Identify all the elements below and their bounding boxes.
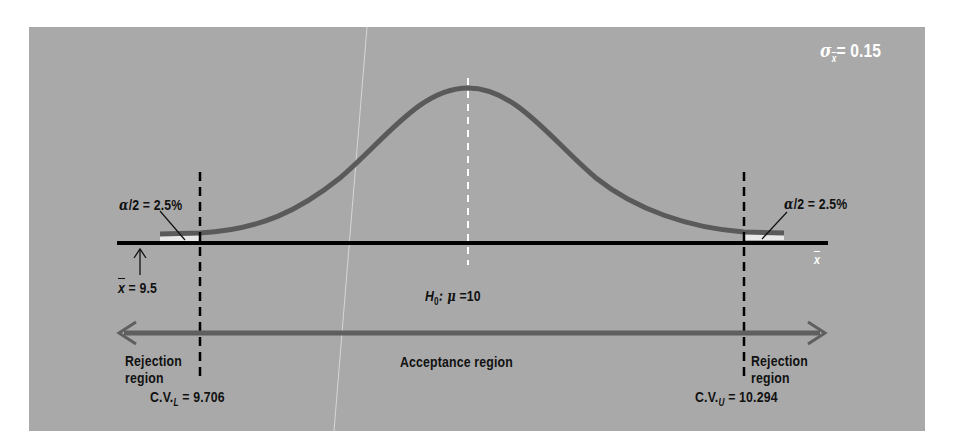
mu-symbol: : μ — [439, 288, 456, 304]
right-region-line2: region — [751, 369, 808, 386]
sigma-symbol: σ — [820, 39, 832, 61]
sigma-value: = 0.15 — [836, 40, 881, 61]
right-alpha-value: /2 = 2.5% — [794, 195, 848, 212]
left-rejection-region-label: Rejection region — [125, 352, 182, 386]
cv-upper-subscript: U — [718, 397, 724, 408]
cv-lower-value: = 9.706 — [179, 388, 225, 405]
alpha-symbol: α — [119, 196, 129, 214]
sample-mean-label: x = 9.5 — [118, 279, 157, 296]
cv-prefix: C.V. — [695, 388, 718, 405]
cv-lower-subscript: L — [173, 397, 178, 408]
xbar-symbol: x — [118, 279, 125, 296]
right-alpha-label: α/2 = 2.5% — [784, 195, 847, 213]
h-symbol: H — [425, 287, 434, 304]
cv-upper-value: = 10.294 — [725, 388, 778, 405]
right-region-line1: Rejection — [751, 352, 808, 369]
cv-prefix: C.V. — [150, 388, 173, 405]
left-alpha-value: /2 = 2.5% — [129, 196, 183, 213]
left-alpha-label: α/2 = 2.5% — [119, 196, 182, 214]
sample-mean-value: = 9.5 — [125, 279, 157, 296]
right-rejection-region-label: Rejection region — [751, 352, 808, 386]
scan-artifact-line — [334, 27, 367, 431]
sigma-subscript: x — [832, 53, 837, 64]
null-hypothesis-label: H0: μ =10 — [425, 287, 481, 306]
normal-curve — [160, 88, 784, 234]
x-axis-label: x — [814, 251, 820, 268]
left-region-line1: Rejection — [125, 352, 182, 369]
upper-critical-value-label: C.V.U = 10.294 — [695, 388, 778, 407]
standard-error-label: σx= 0.15 — [820, 40, 881, 64]
null-hypothesis-value: =10 — [456, 287, 481, 304]
left-region-line2: region — [125, 369, 182, 386]
x-axis-label-text: x — [814, 252, 820, 267]
alpha-symbol: α — [784, 195, 794, 213]
lower-critical-value-label: C.V.L = 9.706 — [150, 388, 225, 407]
acceptance-region-label: Acceptance region — [400, 353, 513, 370]
h-subscript: 0 — [434, 296, 439, 307]
